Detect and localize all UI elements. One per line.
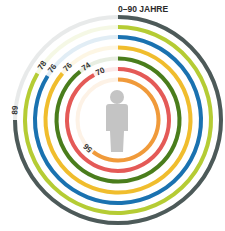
value-label: 89 [10, 105, 19, 115]
radial-age-chart: 0–90 JAHRE 89787676747056 [0, 0, 225, 231]
chart-title: 0–90 JAHRE [118, 4, 168, 14]
person-icon [106, 90, 128, 152]
